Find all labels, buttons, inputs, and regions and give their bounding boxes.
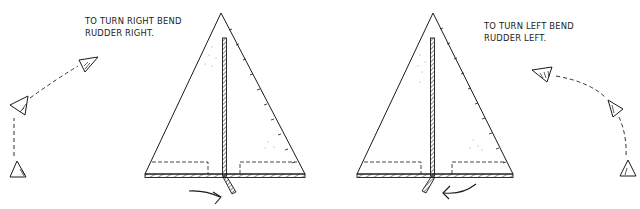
right-plane-pos-1-icon [620,160,636,176]
right-caption: To turn left bend rudder left. [484,21,574,44]
left-rudder-arrow-icon [189,191,221,204]
right-plane-pos-3-icon [532,67,552,82]
left-rudder-bent-right [223,177,236,194]
right-plane-pos-2-icon [608,100,623,117]
right-rudder-arrow-icon [443,184,476,199]
right-rudder-bent-left [422,177,435,193]
right-caption-line-2: rudder left. [484,33,574,45]
right-keel [431,38,435,176]
left-keel [223,38,227,176]
left-flight-path-icon [10,57,98,177]
right-caption-line-1: To turn left bend [484,21,574,33]
left-caption: To turn right bend rudder right. [85,16,182,39]
paper-airplane-rudder-diagram: To turn right bend rudder right. To turn… [0,0,640,209]
left-caption-line-1: To turn right bend [85,16,182,28]
right-flight-path-icon [532,67,636,176]
left-caption-line-2: rudder right. [85,28,182,40]
left-airplane [145,13,305,204]
